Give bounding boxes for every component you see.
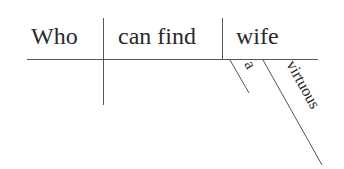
verb-word: can find xyxy=(118,23,196,49)
object-word: wife xyxy=(236,23,279,49)
sentence-diagram: Who can find wife a virtuous xyxy=(0,0,344,169)
subject-word: Who xyxy=(31,23,78,49)
modifier-word-virtuous: virtuous xyxy=(283,57,323,111)
